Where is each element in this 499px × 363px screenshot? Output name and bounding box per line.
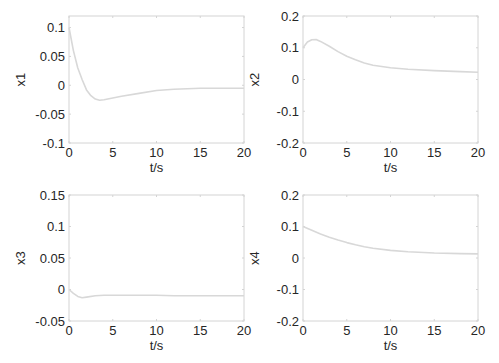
x-tick-label: 5 (109, 323, 116, 338)
data-line (69, 28, 244, 101)
axes-frame (69, 195, 244, 321)
x-axis-label: t/s (150, 160, 164, 175)
x-tick-label: 15 (427, 145, 441, 160)
axes-frame (69, 16, 244, 143)
x-tick-label: 10 (149, 323, 163, 338)
y-tick-label: 0.05 (40, 251, 65, 266)
y-tick-label: -0.1 (43, 136, 65, 151)
x-tick-label: 20 (471, 323, 485, 338)
x-tick-label: 0 (65, 145, 72, 160)
y-axis-label: x3 (13, 251, 28, 265)
axes-frame (303, 16, 478, 143)
y-tick-label: -0.05 (35, 314, 65, 329)
y-axis-label: x2 (247, 73, 262, 87)
data-line (69, 290, 244, 298)
subplot-x2: 051015200.20.10-0.1-0.2t/sx2 (247, 9, 485, 176)
y-axis-label: x4 (247, 251, 262, 265)
subplot-x1: 051015200.10.050-0.05-0.1t/sx1 (13, 16, 251, 175)
x-tick-label: 5 (109, 145, 116, 160)
data-line (303, 40, 478, 73)
y-tick-label: -0.1 (277, 282, 299, 297)
x-tick-label: 10 (383, 145, 397, 160)
data-line (303, 227, 478, 254)
y-tick-label: -0.05 (35, 107, 65, 122)
x-tick-label: 15 (427, 323, 441, 338)
y-tick-label: 0.1 (281, 219, 299, 234)
y-tick-label: -0.2 (277, 136, 299, 151)
y-tick-label: -0.2 (277, 314, 299, 329)
y-tick-label: 0.1 (281, 40, 299, 55)
x-tick-label: 0 (299, 323, 306, 338)
x-axis-label: t/s (384, 338, 398, 353)
x-tick-label: 20 (237, 323, 251, 338)
x-tick-label: 5 (343, 323, 350, 338)
subplot-x3: 051015200.150.10.050-0.05t/sx3 (13, 188, 251, 354)
y-tick-label: 0.2 (281, 9, 299, 24)
subplot-x4: 051015200.20.10-0.1-0.2t/sx4 (247, 188, 485, 354)
y-tick-label: 0 (58, 282, 65, 297)
x-tick-label: 10 (149, 145, 163, 160)
y-tick-label: 0 (292, 72, 299, 87)
y-tick-label: -0.1 (277, 104, 299, 119)
y-tick-label: 0.05 (40, 49, 65, 64)
y-tick-label: 0.1 (47, 20, 65, 35)
x-tick-label: 20 (471, 145, 485, 160)
y-axis-label: x1 (13, 73, 28, 87)
x-axis-label: t/s (384, 160, 398, 175)
y-tick-label: 0.15 (40, 188, 65, 203)
x-tick-label: 15 (193, 145, 207, 160)
x-tick-label: 10 (383, 323, 397, 338)
x-tick-label: 20 (237, 145, 251, 160)
x-tick-label: 0 (299, 145, 306, 160)
x-axis-label: t/s (150, 338, 164, 353)
axes-frame (303, 195, 478, 321)
y-tick-label: 0 (292, 251, 299, 266)
y-tick-label: 0 (58, 78, 65, 93)
x-tick-label: 0 (65, 323, 72, 338)
y-tick-label: 0.2 (281, 188, 299, 203)
x-tick-label: 15 (193, 323, 207, 338)
figure: 051015200.10.050-0.05-0.1t/sx1051015200.… (0, 0, 499, 363)
y-tick-label: 0.1 (47, 219, 65, 234)
x-tick-label: 5 (343, 145, 350, 160)
